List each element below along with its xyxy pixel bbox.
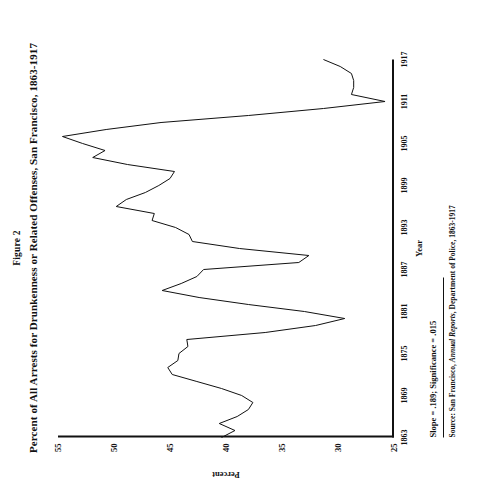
y-tick-label: 25 [389, 443, 399, 452]
source-text-a: San Francisco, [448, 362, 457, 411]
x-tick-label: 1875 [400, 345, 409, 361]
y-tick-label: 30 [333, 443, 343, 452]
y-tick-label: 40 [221, 443, 231, 452]
x-tick-label: 1887 [400, 261, 409, 277]
source-note: Source: San Francisco, Annual Reports, D… [448, 37, 457, 437]
data-line-chart [58, 59, 394, 437]
source-text-c: , Department of Police, 1863-1917 [448, 205, 457, 313]
figure-inner: Figure 2 Percent of All Arrests for Drun… [0, 0, 478, 495]
source-prefix: Source: [448, 413, 457, 437]
y-tick-label: 45 [165, 443, 175, 452]
x-tick-label: 1917 [400, 51, 409, 67]
plot-area: 25303540455055 1863186918751881188718931… [58, 59, 394, 437]
y-axis-label: Percent [58, 467, 394, 481]
x-tick-label: 1911 [400, 93, 409, 109]
x-tick-label: 1881 [400, 303, 409, 319]
figure-rotated-container: Figure 2 Percent of All Arrests for Drun… [0, 0, 478, 495]
y-tick-label: 35 [277, 443, 287, 452]
x-tick-label: 1905 [400, 135, 409, 151]
data-series-line [62, 59, 385, 437]
x-tick-label: 1893 [400, 219, 409, 235]
x-tick-label: 1899 [400, 177, 409, 193]
source-text-italic: Annual Reports [448, 313, 457, 362]
x-tick-label: 1869 [400, 387, 409, 403]
y-axis-label-text: Percent [212, 469, 240, 479]
figure-number: Figure 2 [12, 0, 22, 495]
y-tick-label: 50 [109, 443, 119, 452]
x-tick-label: 1863 [400, 429, 409, 445]
x-axis-label: Year [414, 59, 424, 437]
figure-title: Percent of All Arrests for Drunkenness o… [27, 0, 39, 495]
notes-divider [443, 277, 444, 437]
y-tick-label: 55 [53, 443, 63, 452]
figure-notes: Slope = .189; Significance = .015 Source… [428, 37, 457, 437]
slope-significance-note: Slope = .189; Significance = .015 [428, 37, 438, 437]
